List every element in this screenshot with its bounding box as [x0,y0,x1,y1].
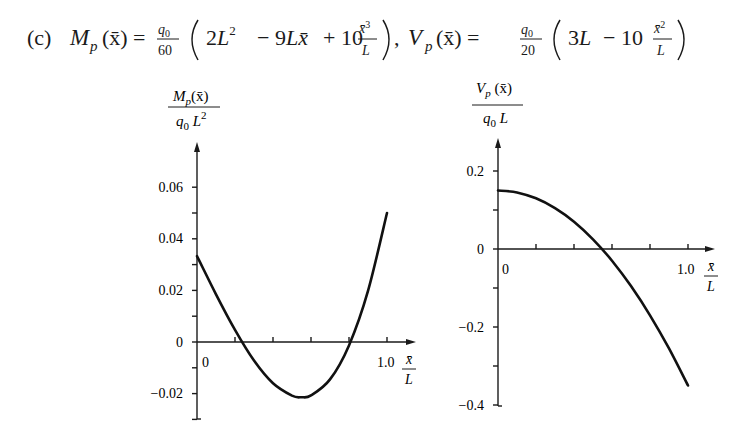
moment-xlabel-num: x̄ [405,352,413,367]
moment-ylabel-num: Mp(x̄) [172,88,209,107]
shear-x-tick-labels: 0 1.0 [502,262,695,277]
moment-x-tick-labels: 0 1.0 [202,355,395,370]
moment-ylabel-den: q0 L2 [176,109,207,132]
moment-ytick-label: 0 [176,335,183,350]
moment-symbol: M [69,25,91,50]
moment-xtick-label: 1.0 [377,355,395,370]
moment-ytick-label: 0.02 [159,283,184,298]
moment-paren-close [383,20,389,60]
shear-curve [498,191,688,386]
shear-arg: (x̄) [436,25,462,50]
moment-frac-den: L [361,43,370,58]
shear-frac-num: x̄2 [653,19,665,36]
shear-y-arrow-icon [495,138,501,148]
shear-term-2: − 10 [603,25,643,50]
shear-equation: V p (x̄) = q0 20 3L − 10 x̄2 L [408,19,684,60]
moment-ytick-label: 0.04 [159,231,184,246]
shear-paren-open [554,20,560,60]
shear-x-arrow-icon [705,246,715,252]
shear-x-ticks [536,244,688,249]
shear-coef-den: 20 [521,43,535,58]
shear-chart: Vp (x̄) q0 L 0.2 0 −0.2 −0.4 0 1.0 x̄ L [459,80,718,413]
shear-ytick-label: −0.4 [459,398,484,413]
moment-equals: = [133,25,145,50]
moment-y-tick-labels: 0.06 0.04 0.02 0 −0.02 [151,180,183,401]
moment-paren-open [192,20,198,60]
shear-term-1: 3L [568,25,591,50]
shear-xtick-label: 0 [502,262,509,277]
shear-ylabel-den: q0 L [483,110,508,129]
part-label: (c) [27,25,51,50]
shear-y-axis-label: Vp (x̄) q0 L [472,80,523,129]
moment-coef-den: 60 [158,43,172,58]
shear-ytick-label: −0.2 [459,320,484,335]
shear-symbol: V [408,25,425,50]
moment-term-1: 2L2 [206,23,236,50]
shear-ytick-label: 0.2 [467,164,485,179]
separator-comma: , [394,25,400,50]
moment-term-2: − 9Lx̄ [257,25,308,50]
figure-canvas: (c) M p (x̄) = q0 60 2L2 − 9Lx̄ + 10 x̄3… [0,0,754,439]
shear-y-tick-labels: 0.2 0 −0.2 −0.4 [459,164,484,413]
moment-term-3: + 10 [323,25,363,50]
moment-equation: M p (x̄) = q0 60 2L2 − 9Lx̄ + 10 x̄3 L , [69,19,400,60]
formula-line: (c) M p (x̄) = q0 60 2L2 − 9Lx̄ + 10 x̄3… [27,19,684,60]
moment-frac-num: x̄3 [358,19,370,36]
moment-chart: Mp(x̄) q0 L2 0.06 0.04 0.02 0 −0.02 0 1.… [151,88,416,419]
shear-coef-num: q0 [521,22,533,39]
moment-coef-num: q0 [158,22,170,39]
shear-equals: = [467,25,479,50]
moment-y-ticks [192,187,197,419]
moment-xlabel-den: L [404,372,413,387]
shear-frac-den: L [656,43,665,58]
shear-subscript: p [424,38,433,54]
moment-y-axis-label: Mp(x̄) q0 L2 [168,88,220,132]
moment-y-arrow-icon [194,142,200,152]
shear-xlabel-den: L [706,279,715,294]
moment-ytick-label: 0.06 [159,180,184,195]
moment-x-arrow-icon [406,339,416,345]
shear-paren-close [678,20,684,60]
moment-xtick-label: 0 [202,355,209,370]
moment-curve [197,213,387,397]
shear-ylabel-num: Vp (x̄) [476,80,512,99]
moment-x-axis-label: x̄ L [402,352,416,387]
shear-xtick-label: 1.0 [677,262,695,277]
shear-x-axis-label: x̄ L [704,259,718,294]
moment-subscript: p [89,38,98,54]
shear-y-ticks [493,171,498,405]
shear-xlabel-num: x̄ [707,259,715,274]
moment-arg: (x̄) [102,25,128,50]
moment-ytick-label: −0.02 [151,386,183,401]
shear-ytick-label: 0 [477,242,484,257]
moment-x-ticks [235,337,387,342]
